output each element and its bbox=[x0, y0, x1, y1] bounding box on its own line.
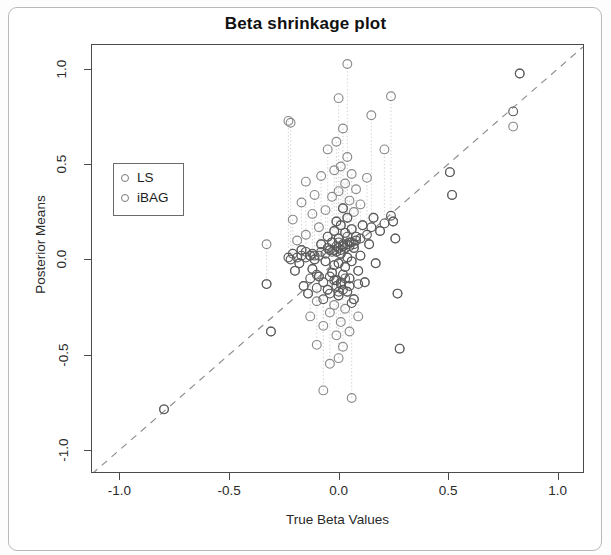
y-tick-mark bbox=[84, 450, 91, 451]
legend-label-ibag: iBAG bbox=[137, 190, 169, 205]
y-tick-label: 0.0 bbox=[54, 250, 69, 269]
y-tick-label: 1.0 bbox=[54, 59, 69, 78]
legend-item-ls: LS bbox=[121, 170, 154, 185]
y-tick-label: -0.5 bbox=[56, 343, 71, 366]
y-tick-mark bbox=[84, 259, 91, 260]
x-tick-label: -1.0 bbox=[108, 483, 131, 498]
legend-item-ibag: iBAG bbox=[121, 190, 169, 205]
legend[interactable]: LS iBAG bbox=[113, 163, 184, 216]
open-circle-icon bbox=[121, 194, 129, 202]
x-tick-mark bbox=[229, 473, 230, 480]
x-tick-mark bbox=[119, 473, 120, 480]
open-circle-icon bbox=[121, 174, 129, 182]
legend-label-ls: LS bbox=[137, 170, 154, 185]
series-ls-points bbox=[160, 60, 524, 414]
x-tick-mark bbox=[448, 473, 449, 480]
x-tick-mark bbox=[558, 473, 559, 480]
y-tick-mark bbox=[84, 164, 91, 165]
x-tick-label: 0.0 bbox=[329, 483, 348, 498]
plot-frame bbox=[91, 44, 584, 473]
page-title: Beta shrinkage plot bbox=[0, 14, 611, 34]
x-tick-label: 1.0 bbox=[548, 483, 567, 498]
y-tick-label: 0.5 bbox=[54, 155, 69, 174]
y-tick-mark bbox=[84, 355, 91, 356]
x-tick-label: -0.5 bbox=[217, 483, 240, 498]
screenshot-root: Beta shrinkage plot -1.0-0.50.00.51.0-1.… bbox=[0, 0, 611, 555]
series-ibag-points bbox=[160, 69, 524, 414]
scatter-plot-canvas bbox=[92, 45, 583, 472]
y-tick-mark bbox=[84, 69, 91, 70]
x-tick-mark bbox=[339, 473, 340, 480]
y-tick-label: -1.0 bbox=[56, 438, 71, 461]
x-axis-label: True Beta Values bbox=[91, 512, 584, 527]
y-axis-label: Posterior Means bbox=[33, 135, 48, 355]
x-tick-label: 0.5 bbox=[439, 483, 458, 498]
